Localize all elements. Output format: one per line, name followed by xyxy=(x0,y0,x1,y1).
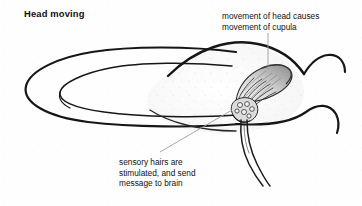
label-sensory-hairs: sensory hairs are stimulated, and send m… xyxy=(119,157,196,189)
diagram-canvas: Head moving movement of head causes move… xyxy=(0,0,362,206)
page-title: Head moving xyxy=(24,9,85,20)
hair-cell-cluster xyxy=(231,98,257,123)
label-cupula-movement: movement of head causes movement of cupu… xyxy=(222,11,319,32)
